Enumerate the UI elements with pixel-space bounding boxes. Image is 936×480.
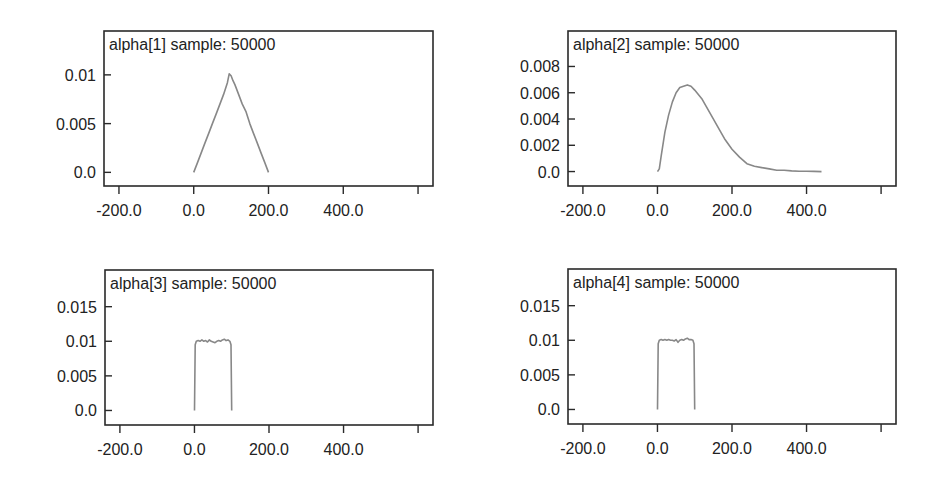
panel-title: alpha[2] sample: 50000 bbox=[573, 36, 739, 53]
x-tick-label: 200.0 bbox=[249, 441, 289, 458]
panel-title: alpha[1] sample: 50000 bbox=[109, 36, 275, 53]
y-tick-label: 0.01 bbox=[66, 333, 97, 350]
y-tick-label: 0.0 bbox=[75, 402, 97, 419]
density-line bbox=[658, 338, 695, 409]
y-tick-label: 0.0 bbox=[74, 164, 96, 181]
y-axis: 0.00.0020.0040.0060.008 bbox=[520, 58, 575, 180]
x-axis: -200.00.0200.0400.0 bbox=[560, 424, 881, 457]
density-line bbox=[195, 339, 232, 410]
y-tick-label: 0.01 bbox=[65, 67, 96, 84]
panel-title: alpha[4] sample: 50000 bbox=[573, 274, 739, 291]
panel-alpha-1: alpha[1] sample: 50000 0.00.0050.01 -200… bbox=[56, 31, 433, 219]
y-tick-label: 0.015 bbox=[57, 299, 97, 316]
x-tick-label: 400.0 bbox=[787, 202, 827, 219]
density-line bbox=[658, 85, 822, 172]
x-axis: -200.00.0200.0400.0 bbox=[560, 186, 881, 219]
x-tick-label: 400.0 bbox=[323, 202, 363, 219]
panel-alpha-4: alpha[4] sample: 50000 0.00.0050.010.015… bbox=[520, 269, 896, 457]
panel-alpha-3: alpha[3] sample: 50000 0.00.0050.010.015… bbox=[57, 270, 433, 458]
y-tick-label: 0.005 bbox=[57, 368, 97, 385]
x-tick-label: 0.0 bbox=[183, 441, 205, 458]
y-tick-label: 0.006 bbox=[520, 85, 560, 102]
plot-frame bbox=[104, 31, 433, 186]
x-axis: -200.00.0200.0400.0 bbox=[97, 425, 418, 458]
x-axis: -200.00.0200.0400.0 bbox=[96, 186, 418, 219]
x-tick-label: 200.0 bbox=[712, 440, 752, 457]
x-tick-label: 0.0 bbox=[646, 202, 668, 219]
plot-frame bbox=[105, 270, 433, 425]
x-tick-label: 0.0 bbox=[646, 440, 668, 457]
x-tick-label: 0.0 bbox=[183, 202, 205, 219]
y-tick-label: 0.0 bbox=[538, 164, 560, 181]
y-tick-label: 0.0 bbox=[538, 401, 560, 418]
x-tick-label: 200.0 bbox=[712, 202, 752, 219]
y-axis: 0.00.0050.01 bbox=[56, 67, 111, 181]
x-tick-label: 200.0 bbox=[248, 202, 288, 219]
plot-frame bbox=[568, 31, 896, 186]
x-tick-label: -200.0 bbox=[560, 202, 605, 219]
plot-frame bbox=[568, 269, 896, 424]
y-tick-label: 0.002 bbox=[520, 137, 560, 154]
y-tick-label: 0.01 bbox=[529, 332, 560, 349]
y-axis: 0.00.0050.010.015 bbox=[57, 299, 112, 420]
x-tick-label: 400.0 bbox=[324, 441, 364, 458]
x-tick-label: -200.0 bbox=[96, 202, 141, 219]
x-tick-label: -200.0 bbox=[560, 440, 605, 457]
y-tick-label: 0.004 bbox=[520, 111, 560, 128]
panel-title: alpha[3] sample: 50000 bbox=[110, 275, 276, 292]
y-tick-label: 0.005 bbox=[56, 116, 96, 133]
y-tick-label: 0.015 bbox=[520, 298, 560, 315]
y-axis: 0.00.0050.010.015 bbox=[520, 298, 575, 419]
x-tick-label: 400.0 bbox=[787, 440, 827, 457]
y-tick-label: 0.008 bbox=[520, 58, 560, 75]
y-tick-label: 0.005 bbox=[520, 367, 560, 384]
density-plot-figure: alpha[1] sample: 50000 0.00.0050.01 -200… bbox=[0, 0, 936, 480]
panel-alpha-2: alpha[2] sample: 50000 0.00.0020.0040.00… bbox=[520, 31, 896, 219]
x-tick-label: -200.0 bbox=[97, 441, 142, 458]
density-line bbox=[194, 74, 269, 172]
